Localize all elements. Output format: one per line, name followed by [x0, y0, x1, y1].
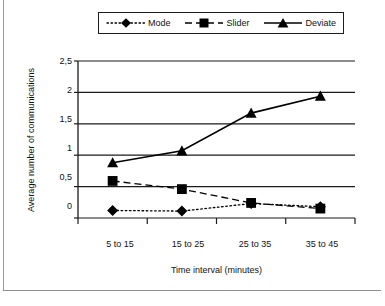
data-point-slider	[246, 198, 256, 208]
plot-area	[0, 0, 385, 306]
ytick-label-2-5: 2,5	[48, 57, 72, 66]
xtick-label-25-to-35: 25 to 35	[220, 240, 290, 249]
ytick-label-1-5: 1,5	[48, 115, 72, 124]
data-point-slider	[315, 204, 325, 214]
series-line-deviate	[113, 96, 321, 163]
ytick-label-1: 1	[48, 144, 72, 153]
series-line-slider	[113, 181, 321, 209]
y-axis-title: Average number of communications	[26, 60, 36, 220]
data-point-mode	[176, 206, 187, 217]
chart-figure: Mode Slider Deviate 2,5 2 1,5	[0, 0, 385, 306]
series-line-mode	[113, 204, 321, 212]
xtick-label-15-to-25: 15 to 25	[153, 240, 223, 249]
data-point-slider	[108, 176, 118, 186]
xtick-label-5-to-15: 5 to 15	[85, 240, 155, 249]
data-point-slider	[177, 184, 187, 194]
ytick-label-0: 0	[48, 202, 72, 211]
xtick-label-35-to-45: 35 to 45	[287, 240, 357, 249]
ytick-label-0-5: 0,5	[48, 173, 72, 182]
ytick-label-2: 2	[48, 86, 72, 95]
data-point-deviate	[176, 145, 187, 155]
data-point-mode	[107, 205, 118, 216]
x-axis-title: Time interval (minutes)	[78, 265, 355, 275]
